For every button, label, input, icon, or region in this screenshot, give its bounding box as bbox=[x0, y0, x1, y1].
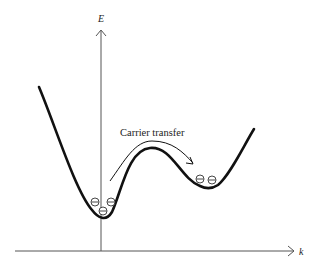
carrier-transfer-label: Carrier transfer bbox=[120, 127, 185, 138]
electron-icon bbox=[91, 198, 99, 206]
energy-axis-label: E bbox=[97, 13, 104, 24]
band-diagram: E k Carrier transfer bbox=[0, 0, 321, 268]
electron-icon bbox=[99, 207, 107, 215]
electron-icon bbox=[208, 176, 216, 184]
transfer-arrowhead-icon bbox=[186, 157, 193, 164]
carrier-transfer-arrow: Carrier transfer bbox=[110, 127, 193, 181]
electron-icon bbox=[107, 198, 115, 206]
satellite-valley-electrons bbox=[196, 175, 216, 184]
electron-icon bbox=[196, 175, 204, 183]
k-axis-label: k bbox=[299, 246, 304, 257]
band-curve bbox=[39, 87, 254, 218]
